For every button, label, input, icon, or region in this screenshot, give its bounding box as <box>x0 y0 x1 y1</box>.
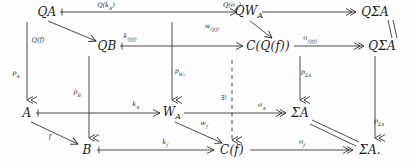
arrow-label-k-f: kf <box>162 138 168 147</box>
equality-QSA-right-a <box>388 20 392 38</box>
commutative-diagram: QA QWA QΣA QB C(Q(f)) QΣA A WA ΣA B C(f)… <box>0 0 416 167</box>
node-CQf: C(Q(f)) <box>246 39 290 53</box>
arrow-A-B <box>31 122 78 144</box>
arrow-label-w-f: wf <box>200 119 207 128</box>
arrow-label-sigmaQf: σQ(f) <box>303 34 317 43</box>
equality-SA-bottom-b <box>312 120 359 142</box>
arrow-label-k-A: kA <box>132 100 139 109</box>
arrow-label-f: f <box>49 133 51 141</box>
arrow-label-exists-unique: ∃! <box>221 94 227 102</box>
node-QSigmaA-second: QΣA <box>368 39 396 53</box>
arrow-label-p-SigmaA-right: pΣA <box>374 117 385 126</box>
equality-QSA-right-b <box>393 20 397 38</box>
node-QA: QA <box>38 5 57 19</box>
arrow-label-Qk-A: Q(kA) <box>97 1 115 10</box>
node-SigmaA-bottom: ΣA. <box>359 143 381 157</box>
arrow-label-p-SigmaA-upper: pΣA <box>301 68 312 77</box>
arrow-QWA-CQf <box>250 21 272 38</box>
node-QB: QB <box>97 39 116 53</box>
arrow-QA-QB <box>48 21 96 41</box>
node-Cf: C(f) <box>220 143 244 157</box>
arrow-label-p-B: pB <box>73 88 81 97</box>
arrow-label-p-WA: pWₐ <box>175 67 186 76</box>
arrow-label-Qsigma-A: Q(σA) <box>223 1 241 10</box>
node-QSigmaA-top: QΣA <box>361 5 389 19</box>
equality-SA-bottom-a <box>310 124 356 146</box>
node-SigmaA-third: ΣA <box>291 106 309 120</box>
arrow-label-wQf: wQ(f) <box>205 22 220 31</box>
arrow-label-sigma-f: σf <box>299 138 305 147</box>
arrow-label-Qf: Q(f) <box>32 36 45 44</box>
arrow-label-kQf: kQ(f) <box>123 32 136 41</box>
node-WA: WA <box>163 105 182 121</box>
arrow-WA-Cf <box>175 122 222 143</box>
node-A: A <box>23 106 32 120</box>
arrow-label-p-A: pA <box>12 69 20 78</box>
node-B: B <box>82 143 91 157</box>
arrow-label-sigma-A: σA <box>258 101 266 110</box>
